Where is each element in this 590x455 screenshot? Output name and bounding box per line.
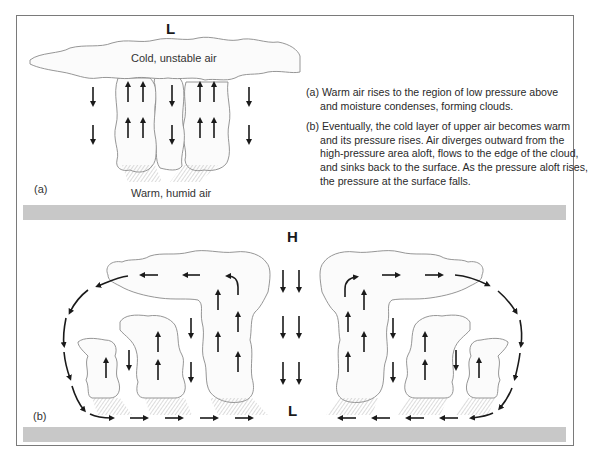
low-pressure-label-b: L	[288, 402, 297, 419]
caption-line: (a) Warm air rises to the region of low …	[306, 86, 588, 100]
caption-line: (b) Eventually, the cold layer of upper …	[306, 120, 588, 134]
cold-air-label: Cold, unstable air	[131, 52, 217, 64]
arrow-curve-icon	[515, 353, 520, 378]
arrow-curve-icon	[64, 318, 66, 345]
caption-a: (a) Warm air rises to the region of low …	[306, 86, 588, 113]
arrow-curve-icon	[498, 291, 516, 312]
caption-line: and its pressure rises. Air diverges out…	[306, 134, 588, 148]
separator-bar-1	[23, 205, 566, 220]
caption-block: (a) Warm air rises to the region of low …	[306, 86, 588, 188]
panel-b-right-clouds	[320, 251, 508, 415]
arrow-curve-icon	[72, 386, 84, 410]
arrow-curve-icon	[520, 320, 522, 345]
caption-b: (b) Eventually, the cold layer of upper …	[306, 120, 588, 188]
separator-bar-2	[23, 427, 566, 442]
panel-b-label: (b)	[33, 410, 46, 422]
high-pressure-label-b: H	[287, 228, 298, 245]
arrow-curve-icon	[500, 388, 512, 408]
caption-line: high-pressure area aloft, flows to the e…	[306, 147, 588, 161]
arrow-curve-icon	[64, 352, 70, 378]
caption-line: and moisture condenses, forming clouds.	[306, 100, 588, 114]
low-pressure-label-a: L	[166, 20, 175, 37]
caption-line: the pressure at the surface falls.	[306, 175, 588, 189]
warm-air-label: Warm, humid air	[131, 187, 211, 199]
arrow-curve-icon	[70, 290, 88, 312]
caption-line: and sinks back to the surface. As the pr…	[306, 161, 588, 175]
panel-b-left-clouds	[78, 251, 270, 415]
panel-a-label: (a)	[34, 183, 47, 195]
